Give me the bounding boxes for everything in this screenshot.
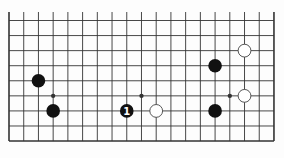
black-stone: 1 xyxy=(120,104,134,118)
board-grid xyxy=(9,12,274,141)
white-stone xyxy=(238,44,251,57)
black-stone-icon xyxy=(208,59,222,73)
white-stone-icon xyxy=(238,89,251,102)
black-stone xyxy=(32,74,46,88)
star-point-icon xyxy=(228,94,232,98)
black-stone-icon xyxy=(32,74,46,88)
white-stone xyxy=(150,105,163,118)
white-stone xyxy=(238,89,251,102)
go-board-diagram: 1 xyxy=(0,0,284,158)
black-stone-icon xyxy=(208,104,222,118)
black-stone xyxy=(208,59,222,73)
black-stone xyxy=(46,104,60,118)
white-stone-icon xyxy=(150,105,163,118)
white-stone-icon xyxy=(238,44,251,57)
black-stone xyxy=(208,104,222,118)
move-number-label: 1 xyxy=(123,106,130,117)
star-point-icon xyxy=(139,94,143,98)
black-stone-icon xyxy=(46,104,60,118)
star-point-icon xyxy=(51,94,55,98)
